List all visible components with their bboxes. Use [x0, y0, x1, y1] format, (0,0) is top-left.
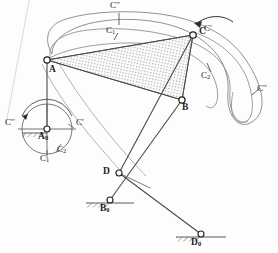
label-c-double-prime-circle-left: C′′ — [5, 118, 15, 127]
ground-symbol-b0 — [86, 203, 134, 208]
label-c2-right: C2 — [201, 71, 210, 81]
linkage-vector-graphic — [0, 0, 278, 253]
label-c2-circle: C2 — [57, 145, 66, 155]
label-point-a: A — [49, 65, 56, 75]
page-edge-line — [6, 0, 30, 124]
label-c1-circle: C1 — [40, 154, 49, 164]
joint-d — [116, 170, 122, 176]
label-c1-top: C1 — [106, 26, 115, 36]
diagram-canvas: C′′ C1 C′ C2 C′′ C′′ C′ C1 C2 A A0 B B0 … — [0, 0, 278, 253]
label-point-d0: D0 — [191, 238, 201, 248]
label-point-b: B — [182, 103, 188, 113]
coupler-curve-group — [42, 12, 262, 176]
crank-tick-c-prime — [68, 124, 74, 128]
joint-c — [190, 32, 196, 38]
label-point-b0: B0 — [100, 204, 110, 214]
joint-a — [44, 57, 50, 63]
link-d-d0 — [119, 173, 201, 234]
label-point-a0: A0 — [38, 132, 48, 142]
coupler-body-triangle — [47, 35, 193, 100]
label-point-d: D — [103, 167, 110, 177]
label-point-c: C — [199, 27, 206, 37]
joint-b0 — [107, 197, 113, 203]
label-c-double-prime-top: C′′ — [110, 1, 120, 10]
joint-d0 — [198, 231, 204, 237]
label-c-double-prime-right: C′′ — [257, 84, 267, 93]
label-c-prime-circle-right: C′ — [76, 118, 84, 127]
link-b-b0 — [110, 100, 182, 200]
